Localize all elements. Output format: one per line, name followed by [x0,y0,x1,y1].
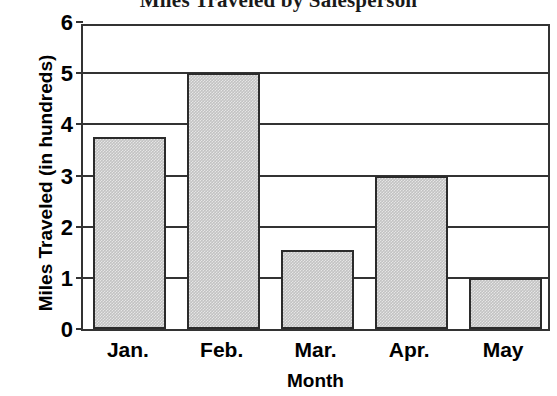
y-tick-mark-6 [76,21,83,23]
chart-title: Miles Traveled by Salesperson [0,0,557,13]
bar-may [469,278,542,329]
y-axis-label: Miles Traveled (in hundreds) [35,33,57,333]
x-tick-label-apr: Apr. [362,338,456,362]
x-tick-label-jan: Jan. [81,338,175,362]
y-tick-label-3: 3 [61,166,73,188]
y-tick-label-5: 5 [61,63,73,85]
x-axis-label: Month [81,370,550,392]
y-tick-mark-4 [76,123,83,125]
y-tick-mark-1 [76,277,83,279]
x-tick-label-mar: Mar. [269,338,363,362]
bar-feb [187,73,260,329]
y-tick-label-6: 6 [61,12,73,34]
bar-jan [93,137,166,329]
bar-chart: Miles Traveled by Salesperson Miles Trav… [0,0,557,396]
bar-apr [375,176,448,330]
bar-mar [281,250,354,329]
y-tick-label-1: 1 [61,268,73,290]
x-tick-label-feb: Feb. [175,338,269,362]
y-tick-mark-5 [76,72,83,74]
plot-area: 0123456 [81,24,550,331]
gridline-5 [83,72,548,74]
y-tick-label-4: 4 [61,114,73,136]
y-tick-mark-0 [76,328,83,330]
gridline-4 [83,123,548,125]
y-tick-mark-3 [76,175,83,177]
y-tick-label-0: 0 [61,319,73,341]
x-tick-label-may: May [456,338,550,362]
y-tick-mark-2 [76,226,83,228]
y-tick-label-2: 2 [61,217,73,239]
